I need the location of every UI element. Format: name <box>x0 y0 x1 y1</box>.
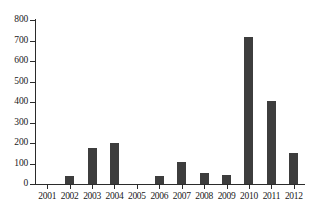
bar-2006 <box>155 176 164 184</box>
y-axis-tick <box>30 143 35 144</box>
x-axis-spine <box>35 184 305 185</box>
bar-2008 <box>200 173 209 184</box>
x-axis-tick <box>114 185 115 189</box>
bar-2002 <box>65 176 74 184</box>
bar-chart-figure: 0100200300400500600700800 20012002200320… <box>0 0 313 214</box>
x-axis-tick <box>271 185 272 189</box>
x-axis-tick <box>159 185 160 189</box>
x-axis-tick <box>92 185 93 189</box>
y-axis-tick-label: 100 <box>0 159 28 169</box>
y-axis-tick <box>30 41 35 42</box>
x-axis-tick <box>47 185 48 189</box>
y-axis-tick-label: 700 <box>0 36 28 46</box>
x-axis-tick <box>70 185 71 189</box>
bar-2004 <box>110 143 119 184</box>
y-axis-tick-label: 200 <box>0 138 28 148</box>
x-axis-tick <box>182 185 183 189</box>
x-axis-tick <box>294 185 295 189</box>
y-axis-tick <box>30 102 35 103</box>
y-axis-tick <box>30 123 35 124</box>
y-axis-tick <box>30 20 35 21</box>
y-axis-tick-label: 400 <box>0 97 28 107</box>
y-axis-tick-label: 600 <box>0 56 28 66</box>
y-axis-tick-label: 300 <box>0 118 28 128</box>
x-axis-tick <box>227 185 228 189</box>
y-axis-tick <box>30 61 35 62</box>
plot-area <box>36 20 305 184</box>
bar-2011 <box>267 101 276 184</box>
bar-2009 <box>222 175 231 184</box>
x-axis-tick <box>204 185 205 189</box>
bar-2007 <box>177 162 186 184</box>
bar-2003 <box>88 148 97 184</box>
y-axis-tick-label: 500 <box>0 77 28 87</box>
x-axis-tick-label-2012: 2012 <box>281 191 307 201</box>
y-axis-tick-label: 0 <box>0 179 28 189</box>
bar-2012 <box>289 153 298 184</box>
x-axis-tick <box>137 185 138 189</box>
y-axis-tick <box>30 164 35 165</box>
y-axis-tick <box>30 82 35 83</box>
bar-2010 <box>244 37 253 184</box>
y-axis-tick <box>30 184 35 185</box>
y-axis-tick-label: 800 <box>0 15 28 25</box>
x-axis-tick <box>249 185 250 189</box>
